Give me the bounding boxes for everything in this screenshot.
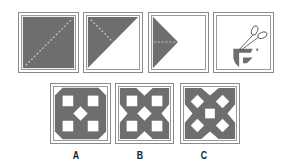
scissors-cut-icon	[214, 13, 273, 72]
option-b-label: B	[132, 149, 148, 161]
option-b-panel[interactable]	[115, 83, 174, 144]
option-a-label: A	[68, 149, 84, 161]
option-a-panel[interactable]	[50, 83, 111, 144]
step-2-panel	[83, 12, 143, 73]
small-triangle-fold-icon	[149, 13, 208, 72]
full-square-icon	[19, 13, 78, 72]
step-4-panel	[213, 12, 274, 73]
pattern-a-icon	[51, 84, 110, 143]
pattern-c-icon	[181, 84, 239, 143]
pattern-b-icon	[116, 84, 173, 143]
step-3-panel	[148, 12, 209, 73]
option-c-label: C	[196, 149, 212, 161]
triangle-fold-icon	[84, 13, 142, 72]
step-1-panel	[18, 12, 79, 73]
option-c-panel[interactable]	[180, 83, 240, 144]
